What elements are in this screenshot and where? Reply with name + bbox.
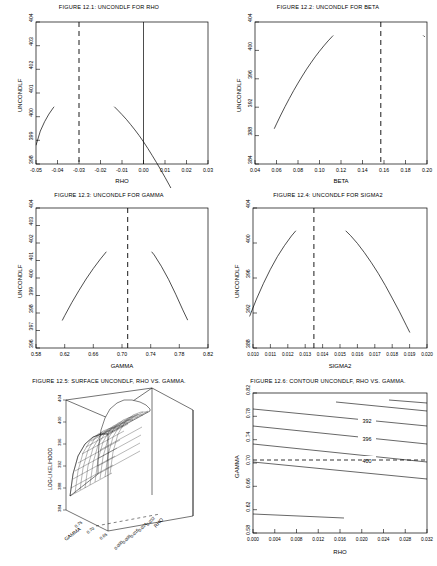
figure-title-12-1: FIGURE 12.1: UNCONDLF FOR RHO: [0, 4, 218, 10]
ytick: 399: [28, 132, 34, 141]
xtick: 0.58: [31, 351, 41, 357]
ytick: 404: [245, 199, 251, 208]
x-axis-label: GAMMA: [63, 525, 82, 542]
y-axis-label: UNCONDLF: [17, 78, 23, 112]
xtick: 0.70: [86, 525, 96, 534]
contour-label-group: 392 396 400: [358, 416, 376, 464]
xtick: 0.018: [386, 352, 398, 357]
data-curve: [50, 236, 188, 346]
ytick: 384: [247, 155, 253, 164]
figure-plot-12-3: 396 397 398 399 400 401 402 403 404 UNCO…: [0, 192, 218, 374]
ytick: 401: [28, 252, 34, 261]
x-axis-label: SIGMA2: [329, 363, 352, 369]
ytick: 403: [28, 217, 34, 226]
figure-panel-12-3: FIGURE 12.3: UNCONDLF FOR GAMMA 396 397 …: [0, 192, 218, 374]
xtick: 0.03: [203, 167, 213, 173]
xtick: 0.016: [334, 537, 346, 542]
ztick: 392: [57, 460, 62, 468]
ytick: 392: [245, 304, 251, 313]
figure-panel-12-4: FIGURE 12.4: UNCONDLF FOR SIGMA2 388 392…: [219, 192, 437, 374]
xtick: 0.019: [404, 352, 416, 357]
xtick: 0.65: [99, 531, 109, 540]
y-axis-label: GAMMA: [234, 455, 240, 478]
xtick: 0.01: [160, 167, 170, 173]
xtick: 0.16: [379, 167, 389, 173]
ytick: 0.62: [245, 501, 251, 511]
ytick: 0.78: [245, 408, 251, 418]
xtick: 0.82: [203, 351, 213, 357]
figure-title-12-2: FIGURE 12.2: UNCONDLF FOR BETA: [219, 4, 437, 10]
xtick: -0.04: [52, 167, 64, 173]
ytick: 404: [28, 199, 34, 208]
y-axis-label: UNCONDLF: [17, 264, 23, 298]
ztick: 404: [57, 394, 62, 402]
figure-panel-12-6: FIGURE 12.6: CONTOUR UNCONDLF, RHO VS. G…: [219, 378, 437, 566]
ytick: 396: [245, 269, 251, 278]
xtick: 0.00: [138, 167, 148, 173]
xtick: 0.20: [422, 167, 432, 173]
xtick: 0.013: [299, 352, 311, 357]
xtick: 0.004: [269, 537, 281, 542]
contour-label: 396: [363, 436, 372, 442]
ytick: 397: [28, 322, 34, 331]
contour-label: 392: [363, 418, 372, 424]
ytick: 403: [28, 37, 34, 46]
figure-panel-12-2: FIGURE 12.2: UNCONDLF FOR BETA 384 388 3…: [219, 4, 437, 188]
ztick: 384: [57, 504, 62, 512]
ytick: 404: [28, 13, 34, 22]
ytick: 392: [247, 98, 253, 107]
data-curve: [250, 215, 424, 358]
figure-panel-12-1: FIGURE 12.1: UNCONDLF FOR RHO 398 399 40…: [0, 4, 218, 188]
xtick: 0.016: [352, 352, 364, 357]
ytick: 396: [28, 339, 34, 348]
ytick: 0.66: [245, 478, 251, 488]
data-curve: [264, 18, 425, 153]
y-axis-label: UNCONDLF: [236, 78, 242, 112]
xtick: -0.03: [73, 167, 85, 173]
figure-plot-12-1: 398 399 400 401 402 403 404 UNCONDLF -0.…: [0, 4, 218, 188]
xtick: 0.020: [356, 537, 368, 542]
ytick: 402: [28, 234, 34, 243]
ytick: 398: [28, 304, 34, 313]
xtick: 0.011: [265, 352, 277, 357]
xtick: 0.66: [88, 351, 98, 357]
xtick: 0.62: [60, 351, 70, 357]
xtick: 0.028: [399, 537, 411, 542]
xtick: 0.000: [247, 537, 259, 542]
figure-title-12-4: FIGURE 12.4: UNCONDLF FOR SIGMA2: [219, 192, 437, 198]
xtick: 0.70: [117, 351, 127, 357]
ytick: 400: [28, 108, 34, 117]
figure-plot-12-4: 388 392 396 400 404 UNCONDLF 0.010 0.011…: [219, 192, 437, 374]
figure-plot-12-6: 0.58 0.62 0.66 0.70 0.74 0.78 0.82 GAMMA…: [219, 378, 437, 566]
xtick: 0.04: [250, 167, 260, 173]
x-axis-label: GAMMA: [111, 363, 134, 369]
xtick: 0.012: [282, 352, 294, 357]
xtick: -0.02: [95, 167, 107, 173]
x-axis-label: RHO: [333, 549, 347, 555]
xtick: 0.18: [400, 167, 410, 173]
xtick: 0.014: [317, 352, 329, 357]
ztick: 388: [57, 482, 62, 490]
ytick: 396: [247, 70, 253, 79]
ytick: 398: [28, 155, 34, 164]
xtick: 0.012: [312, 537, 324, 542]
xtick: 0.017: [369, 352, 381, 357]
xtick: -0.01: [116, 167, 128, 173]
xtick: 0.015: [334, 352, 346, 357]
xtick: 0.020: [421, 352, 433, 357]
xtick: 0.14: [357, 167, 367, 173]
ytick: 400: [28, 269, 34, 278]
figure-title-12-5: FIGURE 12.5: SURFACE UNCONDLF, RHO VS. G…: [0, 378, 218, 384]
ytick: 400: [245, 234, 251, 243]
ytick: 388: [247, 127, 253, 136]
xtick: 0.008: [290, 537, 302, 542]
surface-mesh: [70, 400, 150, 496]
xtick: 0.02: [181, 167, 191, 173]
xtick: 0.08: [293, 167, 303, 173]
x-axis-label: RHO: [115, 178, 129, 184]
ytick: 0.58: [245, 525, 251, 535]
data-curve: [36, 89, 208, 188]
contour-lines: [253, 400, 427, 518]
ytick: 400: [247, 42, 253, 51]
xtick: -0.05: [30, 167, 42, 173]
